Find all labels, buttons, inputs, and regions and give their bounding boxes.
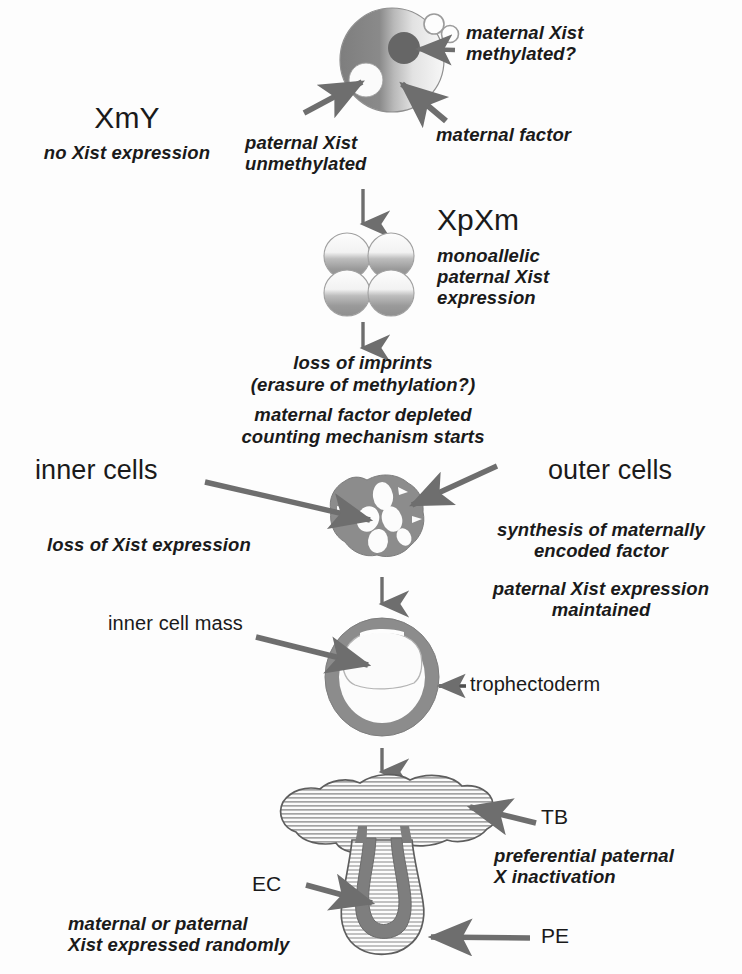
- label-tb: TB: [541, 805, 568, 829]
- four-cell-note: monoallelic paternal Xist expression: [437, 245, 549, 308]
- note-random-xist-expression: maternal or paternal Xist expressed rand…: [68, 913, 289, 955]
- annotation-maternal-xist: maternal Xist methylated?: [466, 22, 584, 64]
- four-cell-graphic: [324, 233, 414, 316]
- note-maternal-factor-synthesis: synthesis of maternally encoded factor: [497, 519, 705, 561]
- morula-graphic: [330, 475, 424, 557]
- arrow-ec: [306, 885, 372, 903]
- diagram-canvas: XmY no Xist expression maternal Xist met…: [0, 0, 742, 974]
- note-loss-of-xist: loss of Xist expression: [47, 534, 251, 555]
- label-inner-cells: inner cells: [35, 455, 158, 486]
- label-ec: EC: [252, 872, 281, 896]
- zygote-expression-note: no Xist expression: [44, 142, 210, 163]
- label-pe: PE: [541, 924, 569, 948]
- label-trophectoderm: trophectoderm: [470, 673, 600, 696]
- annotation-paternal-xist: paternal Xist unmethylated: [245, 132, 366, 174]
- annotation-maternal-factor: maternal factor: [436, 124, 571, 145]
- note-paternal-xist-maintained: paternal Xist expression maintained: [493, 578, 709, 620]
- egg-cylinder-graphic: [281, 775, 497, 955]
- blastocyst-graphic: [325, 618, 439, 736]
- label-outer-cells: outer cells: [548, 455, 672, 486]
- imprint-loss-line-1: loss of imprints: [293, 352, 432, 373]
- label-inner-cell-mass: inner cell mass: [108, 612, 243, 635]
- counting-mechanism-line-1: maternal factor depleted: [254, 404, 471, 425]
- genotype-label-xpxm: XpXm: [437, 203, 519, 237]
- counting-mechanism-line-2: counting mechanism starts: [241, 426, 484, 447]
- genotype-label-xmy: XmY: [94, 101, 159, 135]
- arrow-tb: [470, 807, 536, 823]
- arrow-maternal-xist: [418, 49, 455, 50]
- zygote-cell-graphic: [340, 8, 459, 112]
- arrow-inner-cell-mass: [256, 637, 368, 665]
- arrow-outer-cells: [412, 466, 497, 505]
- arrow-maternal-factor: [402, 84, 446, 121]
- arrow-inner-cells: [205, 482, 370, 520]
- arrow-pe: [431, 937, 530, 938]
- arrow-paternal-xist: [304, 82, 362, 113]
- imprint-loss-line-2: (erasure of methylation?): [251, 374, 476, 395]
- note-preferential-paternal-inactivation: preferential paternal X inactivation: [494, 845, 674, 887]
